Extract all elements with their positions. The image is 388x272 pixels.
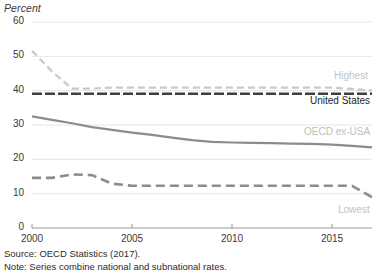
source-note: Source: OECD Statistics (2017). bbox=[4, 248, 140, 259]
series-label-united-states: United States bbox=[310, 95, 370, 106]
y-axis-tick-label: 60 bbox=[0, 15, 24, 26]
x-axis-tick-label: 2005 bbox=[112, 233, 152, 244]
y-axis-tick-label: 0 bbox=[0, 221, 24, 232]
y-axis-tick-label: 40 bbox=[0, 84, 24, 95]
series-label-lowest: Lowest bbox=[338, 204, 370, 215]
y-axis-tick-label: 30 bbox=[0, 118, 24, 129]
series-label-oecd-ex-usa: OECD ex-USA bbox=[304, 126, 370, 137]
y-axis-tick-label: 20 bbox=[0, 152, 24, 163]
series-label-highest: Highest bbox=[334, 70, 368, 81]
x-axis-tick-label: 2015 bbox=[312, 233, 352, 244]
y-axis-tick-label: 50 bbox=[0, 49, 24, 60]
x-axis-tick-label: 2010 bbox=[212, 233, 252, 244]
method-note: Note: Series combine national and subnat… bbox=[4, 261, 227, 272]
x-axis-tick-label: 2000 bbox=[12, 233, 52, 244]
chart-container: Percent Highest United States OECD ex-US… bbox=[0, 0, 388, 272]
y-axis-tick-label: 10 bbox=[0, 187, 24, 198]
